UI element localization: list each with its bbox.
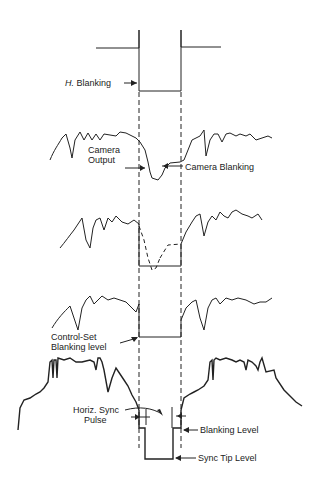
h-blanking-label: H. Blanking xyxy=(65,79,111,88)
control-set-waveform xyxy=(52,296,272,337)
camera-output-label-1: Camera xyxy=(88,146,120,155)
camera-output-waveform xyxy=(50,130,272,180)
sync-tip-level-label: Sync Tip Level xyxy=(198,454,257,463)
horiz-sync-label-1: Horiz. Sync xyxy=(73,406,119,415)
control-set-label-2: Blanking level xyxy=(51,343,107,352)
camera-blanking-waveform xyxy=(60,210,262,270)
camera-output-label-2: Output xyxy=(88,156,115,165)
composite-video-waveform xyxy=(18,358,302,459)
horiz-sync-label-2: Pulse xyxy=(84,416,107,425)
video-waveform-diagram xyxy=(0,0,318,498)
h-blanking-text: Blanking xyxy=(77,78,112,88)
h-prefix: H. xyxy=(65,78,74,88)
guide-lines xyxy=(139,92,181,448)
control-set-label-1: Control-Set xyxy=(51,333,97,342)
camera-blanking-label: Camera Blanking xyxy=(185,163,254,172)
h-blanking-waveform xyxy=(96,30,221,91)
blanking-level-label: Blanking Level xyxy=(200,426,259,435)
